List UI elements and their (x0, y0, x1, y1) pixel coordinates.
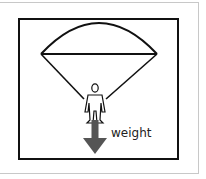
parachute-diagram: weight (0, 0, 206, 179)
left-suspension-line (41, 54, 84, 99)
weight-label: weight (111, 126, 152, 140)
canopy-arc (41, 23, 157, 54)
weight-arrow (83, 120, 107, 154)
right-suspension-line (106, 54, 157, 99)
person-icon (85, 84, 105, 123)
